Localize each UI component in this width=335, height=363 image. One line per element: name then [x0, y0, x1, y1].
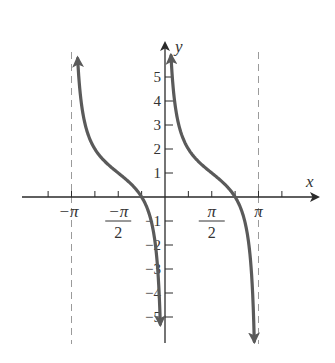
- x-axis-label: x: [305, 172, 314, 191]
- cotangent-graph: −π−π2π2π 54321−1−2−3−4−5 x y: [0, 0, 335, 363]
- x-tick-label: π: [254, 202, 263, 221]
- curves: [78, 56, 255, 342]
- curve-branch-2: [171, 56, 254, 342]
- x-tick-label-numerator: −π: [108, 202, 128, 221]
- x-tick-label-text: π: [254, 202, 263, 221]
- y-tick-label: 5: [154, 69, 162, 85]
- x-tick-label: −π: [59, 202, 79, 221]
- y-tick-label: 4: [154, 93, 162, 109]
- y-tick-label: −2: [145, 237, 161, 253]
- x-tick-label-numerator: π: [207, 202, 216, 221]
- x-tick-label: −π2: [105, 202, 131, 241]
- x-tick-label: π2: [199, 202, 225, 241]
- y-tick-label: 3: [154, 117, 162, 133]
- y-axis-label: y: [173, 37, 183, 56]
- axes: [22, 43, 318, 343]
- x-tick-label-denominator: 2: [208, 224, 216, 241]
- y-tick-label: 1: [154, 165, 162, 181]
- x-tick-label-text: −π: [59, 202, 79, 221]
- y-tick-label: 2: [154, 141, 162, 157]
- x-tick-label-denominator: 2: [114, 224, 122, 241]
